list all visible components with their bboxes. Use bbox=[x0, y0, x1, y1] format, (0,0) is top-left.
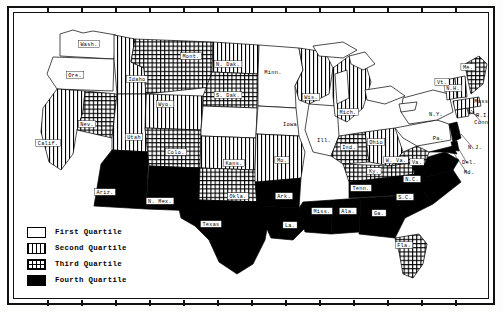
state-label: Ohio bbox=[369, 140, 383, 146]
frame-tick bbox=[183, 300, 185, 306]
state-nebr bbox=[201, 106, 257, 138]
legend-label-fourth-quartile: Fourth Quartile bbox=[55, 276, 127, 284]
legend-item-q3: Third Quartile bbox=[27, 256, 127, 272]
frame-tick bbox=[149, 300, 151, 306]
state-label: Tenn. bbox=[352, 186, 369, 192]
state-label: Ark. bbox=[277, 194, 291, 200]
state-label: N. Mex. bbox=[148, 199, 172, 205]
state-label: La. bbox=[285, 223, 295, 229]
state-minn bbox=[258, 45, 303, 108]
state-label: Ind. bbox=[342, 145, 356, 151]
state-label: N.Y. bbox=[429, 112, 443, 118]
state-label: Me. bbox=[463, 65, 473, 71]
state-label: Nev. bbox=[80, 122, 94, 128]
frame-ticks-bottom bbox=[13, 300, 489, 306]
state-label: Md. bbox=[464, 170, 475, 176]
state-label: Iowa bbox=[283, 122, 298, 128]
legend-item-q1: First Quartile bbox=[27, 224, 127, 240]
legend-swatch-fourth-quartile bbox=[27, 275, 46, 286]
state-label: Wis. bbox=[304, 95, 318, 101]
state-label: Pa. bbox=[433, 136, 444, 142]
state-label: Mont. bbox=[182, 54, 199, 60]
state-label: Minn. bbox=[264, 70, 282, 76]
legend-label-first-quartile: First Quartile bbox=[55, 228, 122, 236]
state-label: Mo. bbox=[277, 158, 287, 164]
state-label: Del. bbox=[462, 160, 476, 166]
state-label: S. Dak. bbox=[216, 93, 240, 99]
state-label: Conn. bbox=[474, 120, 489, 126]
frame-tick bbox=[47, 300, 49, 306]
legend-label-second-quartile: Second Quartile bbox=[55, 244, 127, 252]
state-label: R.I. bbox=[476, 113, 489, 119]
frame-tick bbox=[115, 300, 117, 306]
state-label: Wash. bbox=[80, 42, 97, 48]
state-texas bbox=[179, 200, 269, 274]
state-label: Fla. bbox=[397, 243, 411, 249]
state-label: Va. bbox=[412, 160, 422, 166]
state-wyo bbox=[145, 94, 203, 130]
state-label: Calif. bbox=[38, 141, 58, 147]
state-utah bbox=[112, 94, 149, 152]
state-label: Ore. bbox=[68, 73, 82, 79]
state-me bbox=[465, 56, 487, 94]
frame-tick bbox=[217, 300, 219, 306]
quartile-legend: First Quartile Second Quartile Third Qua… bbox=[27, 224, 127, 288]
frame-tick bbox=[421, 300, 423, 306]
state-label: W. Va. bbox=[386, 158, 406, 164]
legend-swatch-first-quartile bbox=[27, 227, 46, 238]
great-lake-3 bbox=[335, 70, 349, 104]
legend-item-q2: Second Quartile bbox=[27, 240, 127, 256]
legend-item-q4: Fourth Quartile bbox=[27, 272, 127, 288]
state-label: N. Dak. bbox=[216, 62, 240, 68]
frame-tick bbox=[285, 300, 287, 306]
figure-page: Wash.Ore.IdahoMont.Wyo.Calif.Nev.UtahAri… bbox=[0, 0, 503, 313]
state-label: Ill. bbox=[317, 138, 331, 144]
state-label: Ga. bbox=[374, 211, 384, 217]
state-label: Idaho bbox=[128, 77, 145, 83]
state-label: Kans. bbox=[225, 161, 242, 167]
state-label: N.J. bbox=[468, 145, 482, 151]
state-label: N.H. bbox=[446, 86, 460, 92]
legend-swatch-third-quartile bbox=[27, 259, 46, 270]
legend-swatch-second-quartile bbox=[27, 243, 46, 254]
state-label: Texas bbox=[202, 222, 219, 228]
state-pa bbox=[395, 120, 451, 146]
state-s-dak bbox=[203, 72, 258, 108]
state-label: Mass. bbox=[474, 99, 489, 105]
frame-tick bbox=[387, 300, 389, 306]
state-n-dak bbox=[212, 42, 259, 74]
state-label: Ala. bbox=[341, 209, 355, 215]
frame-tick bbox=[319, 300, 321, 306]
state-ala bbox=[331, 198, 361, 234]
state-label: Miss. bbox=[313, 209, 330, 215]
state-label: Ariz. bbox=[96, 190, 113, 196]
state-label: Utah bbox=[127, 135, 141, 141]
frame-tick bbox=[353, 300, 355, 306]
frame-tick bbox=[455, 300, 457, 306]
legend-label-third-quartile: Third Quartile bbox=[55, 260, 122, 268]
state-miss bbox=[299, 200, 333, 234]
state-label: N.C. bbox=[405, 177, 419, 183]
state-label: Ky. bbox=[369, 169, 379, 175]
great-lake-4 bbox=[365, 86, 405, 104]
state-ariz bbox=[94, 150, 149, 209]
state-iowa bbox=[256, 106, 299, 136]
state-label: Vt. bbox=[437, 80, 447, 86]
state-fla bbox=[395, 234, 427, 278]
state-label: Mich. bbox=[339, 110, 356, 116]
state-colo bbox=[145, 128, 201, 168]
state-label: Okla. bbox=[229, 194, 246, 200]
state-label: S.C. bbox=[398, 195, 412, 201]
state-label: Wyo. bbox=[158, 102, 172, 108]
frame-tick bbox=[251, 300, 253, 306]
state-label: Colo. bbox=[167, 150, 184, 156]
frame-tick bbox=[81, 300, 83, 306]
